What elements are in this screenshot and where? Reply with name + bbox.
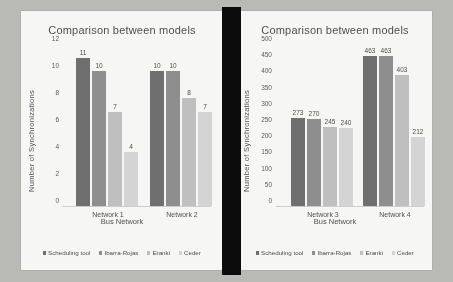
y-tick-label: 12 — [52, 35, 59, 42]
legend-label: Eranki — [152, 249, 170, 256]
bar-fill — [166, 71, 180, 206]
bar: 273 — [291, 118, 305, 206]
bar-value-label: 240 — [341, 119, 352, 126]
bar: 7 — [108, 112, 122, 207]
bar-fill — [182, 98, 196, 206]
bar-fill — [198, 112, 212, 207]
x-axis-line — [276, 206, 424, 207]
y-tick-label: 450 — [261, 51, 272, 58]
bar-value-label: 7 — [113, 103, 117, 110]
bar-fill — [363, 56, 377, 206]
legend-swatch — [43, 251, 46, 255]
bar: 7 — [198, 112, 212, 207]
legend-label: Scheduling tool — [261, 249, 303, 256]
bar-group: 463463403212Network 4 — [362, 44, 428, 206]
bar-fill — [339, 128, 353, 206]
bar: 245 — [323, 127, 337, 206]
bar: 10 — [150, 71, 164, 206]
book-gutter — [222, 7, 241, 275]
bar-value-label: 463 — [365, 47, 376, 54]
legend-item: Scheduling tool — [43, 249, 90, 256]
bar: 212 — [411, 137, 425, 206]
bar-fill — [323, 127, 337, 206]
bar-fill — [124, 152, 138, 206]
legend-left: Scheduling toolIbarra-RojasErankiCeder — [22, 249, 222, 256]
bar: 8 — [182, 98, 196, 206]
y-tick-label: 150 — [261, 148, 272, 155]
legend-swatch — [256, 251, 259, 255]
y-tick-label: 10 — [52, 62, 59, 69]
y-tick-label: 400 — [261, 67, 272, 74]
y-tick-label: 8 — [55, 89, 59, 96]
legend-right: Scheduling toolIbarra-RojasErankiCeder — [235, 249, 435, 256]
bar: 11 — [76, 58, 90, 207]
legend-item: Eranki — [360, 249, 383, 256]
x-axis-label-left: Bus Network — [22, 217, 222, 226]
legend-label: Ceder — [397, 249, 414, 256]
chart-panel-left: Comparison between models Number of Sync… — [22, 11, 222, 270]
bar-fill — [150, 71, 164, 206]
bar: 463 — [379, 56, 393, 206]
legend-item: Ibarra-Rojas — [99, 249, 138, 256]
legend-item: Scheduling tool — [256, 249, 303, 256]
plot-area-right: 5004504003503002502001501005002732702452… — [276, 45, 424, 207]
y-tick-label: 300 — [261, 99, 272, 106]
y-axis-label-right: Number of Synchronizations — [242, 89, 251, 191]
legend-label: Eranki — [365, 249, 383, 256]
legend-swatch — [360, 251, 363, 255]
bar-value-label: 7 — [203, 103, 207, 110]
bar-fill — [76, 58, 90, 207]
y-tick-label: 500 — [261, 35, 272, 42]
bar-value-label: 463 — [381, 47, 392, 54]
y-tick-label: 200 — [261, 132, 272, 139]
bar: 4 — [124, 152, 138, 206]
bar-group: 111074Network 1 — [75, 44, 141, 206]
y-tick-label: 0 — [55, 197, 59, 204]
bar-value-label: 4 — [129, 143, 133, 150]
x-axis-line — [63, 206, 211, 207]
bar: 10 — [92, 71, 106, 206]
y-tick-label: 50 — [265, 180, 272, 187]
y-axis-label-left: Number of Synchronizations — [27, 89, 36, 191]
bar-value-label: 10 — [95, 62, 102, 69]
bar-fill — [379, 56, 393, 206]
bar-value-label: 270 — [309, 110, 320, 117]
y-tick-label: 100 — [261, 164, 272, 171]
legend-swatch — [312, 251, 315, 255]
bar-fill — [291, 118, 305, 206]
bar: 270 — [307, 119, 321, 206]
x-axis-label-right: Bus Network — [235, 217, 435, 226]
bar-value-label: 8 — [187, 89, 191, 96]
bar-group: 273270245240Network 3 — [290, 44, 356, 206]
legend-label: Ibarra-Rojas — [104, 249, 138, 256]
legend-item: Ceder — [179, 249, 201, 256]
legend-swatch — [179, 251, 182, 255]
bar: 463 — [363, 56, 377, 206]
bar-value-label: 10 — [153, 62, 160, 69]
bar-group: 101087Network 2 — [149, 44, 215, 206]
bar-value-label: 11 — [80, 49, 87, 56]
bar-fill — [307, 119, 321, 206]
plot-area-left: 121086420111074Network 1101087Network 2 — [63, 45, 211, 207]
bar-value-label: 10 — [169, 62, 176, 69]
bar: 240 — [339, 128, 353, 206]
y-tick-label: 2 — [55, 170, 59, 177]
y-tick-label: 250 — [261, 116, 272, 123]
legend-label: Scheduling tool — [48, 249, 90, 256]
legend-item: Ibarra-Rojas — [312, 249, 351, 256]
bar-fill — [395, 75, 409, 206]
y-tick-label: 4 — [55, 143, 59, 150]
bar-fill — [92, 71, 106, 206]
y-tick-label: 350 — [261, 83, 272, 90]
bar: 10 — [166, 71, 180, 206]
legend-label: Ceder — [184, 249, 201, 256]
legend-item: Eranki — [147, 249, 170, 256]
legend-item: Ceder — [392, 249, 414, 256]
chart-panel-right: Comparison between models Number of Sync… — [235, 11, 435, 270]
bar-value-label: 403 — [397, 66, 408, 73]
legend-label: Ibarra-Rojas — [317, 249, 351, 256]
legend-swatch — [147, 251, 150, 255]
bar-value-label: 212 — [413, 128, 424, 135]
bar-value-label: 245 — [325, 118, 336, 125]
legend-swatch — [99, 251, 102, 255]
